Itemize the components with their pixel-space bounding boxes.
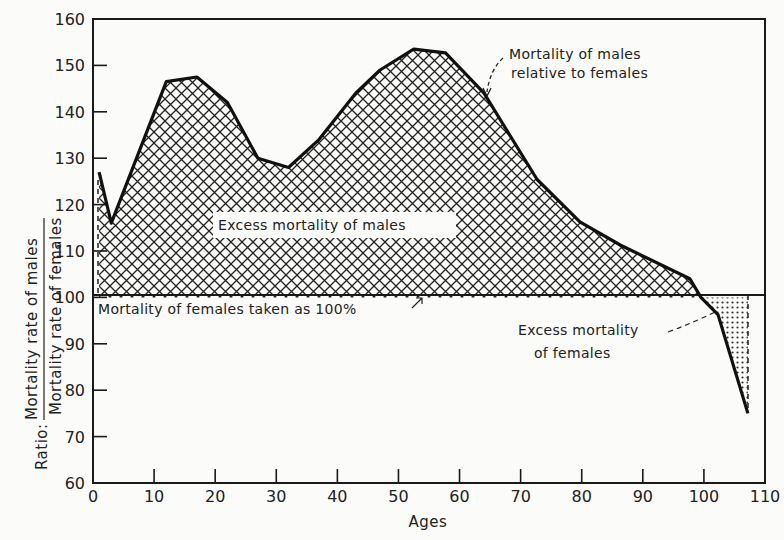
x-tick-label: 110 bbox=[750, 487, 781, 506]
y-axis-denominator: Mortality rate of females bbox=[47, 217, 65, 415]
x-tick-label: 60 bbox=[449, 487, 469, 506]
x-tick-label: 20 bbox=[205, 487, 225, 506]
annotation-males-arrow bbox=[487, 58, 503, 92]
x-tick-label: 30 bbox=[266, 487, 286, 506]
excess-females-line1: Excess mortality bbox=[518, 322, 639, 338]
x-tick-label: 50 bbox=[388, 487, 408, 506]
y-tick-label: 80 bbox=[65, 381, 85, 400]
x-tick-label: 40 bbox=[327, 487, 347, 506]
x-axis-ticks: 0102030405060708090100110 bbox=[88, 469, 780, 506]
annotation-males-line2: relative to females bbox=[511, 65, 648, 81]
y-tick-label: 160 bbox=[54, 10, 85, 29]
y-tick-label: 130 bbox=[54, 149, 85, 168]
y-tick-label: 120 bbox=[54, 196, 85, 215]
x-tick-label: 80 bbox=[572, 487, 592, 506]
x-tick-label: 70 bbox=[510, 487, 530, 506]
y-axis-title: Ratio: Mortality rate of males Mortality… bbox=[23, 217, 65, 470]
excess-females-area bbox=[701, 297, 748, 413]
x-axis-title: Ages bbox=[409, 513, 448, 531]
excess-males-area bbox=[99, 49, 701, 297]
y-axis-prefix: Ratio: bbox=[33, 423, 51, 470]
y-tick-label: 150 bbox=[54, 56, 85, 75]
x-tick-label: 0 bbox=[88, 487, 98, 506]
x-tick-label: 90 bbox=[633, 487, 653, 506]
excess-males-label: Excess mortality of males bbox=[218, 217, 406, 233]
x-tick-label: 100 bbox=[689, 487, 720, 506]
y-tick-label: 60 bbox=[65, 474, 85, 493]
annotation-males-line1: Mortality of males bbox=[509, 46, 641, 62]
excess-females-line2: of females bbox=[534, 345, 611, 361]
y-tick-label: 70 bbox=[65, 428, 85, 447]
x-tick-label: 10 bbox=[144, 487, 164, 506]
y-tick-label: 140 bbox=[54, 103, 85, 122]
y-axis-numerator: Mortality rate of males bbox=[23, 238, 41, 420]
y-tick-label: 90 bbox=[65, 335, 85, 354]
baseline-note: Mortality of females taken as 100% bbox=[98, 301, 357, 317]
mortality-ratio-chart: 60708090100110120130140150160 0102030405… bbox=[0, 0, 784, 540]
excess-females-pointer bbox=[668, 312, 715, 332]
baseline-arrow-icon bbox=[412, 298, 422, 308]
